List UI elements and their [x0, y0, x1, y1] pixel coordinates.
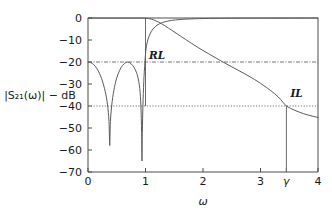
plot-axes — [88, 18, 318, 172]
y-tick-label: −50 — [59, 122, 82, 135]
chart-canvas: 0123γ4 0−10−20−30−40−50−60−70 RLIL ω |S₂… — [0, 0, 332, 214]
axis-frame — [88, 18, 318, 172]
curve-transmission — [88, 18, 318, 117]
y-tick-label: −10 — [59, 34, 82, 47]
y-tick-label: −70 — [59, 166, 82, 179]
y-tick-label: 0 — [75, 12, 82, 25]
x-tick-label: 1 — [142, 175, 149, 188]
tick-marks — [88, 18, 318, 172]
x-axis-title: ω — [198, 195, 207, 208]
y-tick-label: −60 — [59, 144, 82, 157]
annotation-il: IL — [289, 87, 302, 99]
curve-annotations: RLIL — [148, 49, 303, 99]
x-tick-label: 0 — [85, 175, 92, 188]
y-axis-title: |S₂₁(ω)| − dB — [4, 89, 76, 102]
x-tick-label: 2 — [200, 175, 207, 188]
y-tick-label: −20 — [59, 56, 82, 69]
annotation-rl: RL — [148, 49, 165, 61]
filter-response-figure: 0123γ4 0−10−20−30−40−50−60−70 RLIL ω |S₂… — [0, 0, 332, 214]
data-curves — [88, 18, 318, 161]
x-tick-label: 3 — [257, 175, 264, 188]
x-tick-label: γ — [283, 175, 290, 188]
x-tick-label: 4 — [315, 175, 322, 188]
reference-lines — [88, 62, 318, 106]
curve-reflection — [88, 18, 318, 161]
marker-lines — [146, 18, 287, 172]
x-tick-labels: 0123γ4 — [85, 175, 322, 188]
